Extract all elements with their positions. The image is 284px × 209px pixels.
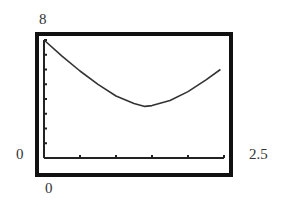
x-max-label: 2.5 <box>249 147 268 162</box>
y-max-label: 8 <box>39 12 47 27</box>
plot-area <box>0 0 284 209</box>
y-min-label: 0 <box>16 147 24 162</box>
x-min-label: 0 <box>45 181 53 196</box>
function-curve <box>44 40 220 106</box>
